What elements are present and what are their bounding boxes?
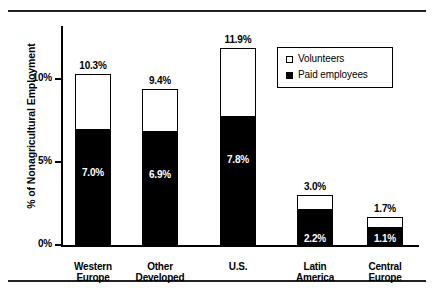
x-category-label: WesternEurope — [74, 261, 112, 284]
category-label-line: Central — [368, 261, 401, 273]
legend-label-volunteers: Volunteers — [298, 54, 344, 64]
bar-group[interactable]: 1.7%1.1%CentralEurope — [367, 217, 403, 245]
bar-paid-label: 7.0% — [82, 167, 104, 178]
y-tick-label: 0% — [14, 239, 52, 249]
figure: % of Nonagricultural Employment 10%5%0% … — [0, 0, 434, 295]
legend-swatch-filled-square-icon — [286, 72, 293, 79]
bar-total-label: 3.0% — [304, 181, 326, 192]
y-axis-title: % of Nonagricultural Employment — [25, 31, 37, 221]
legend-item-volunteers: Volunteers — [286, 54, 344, 64]
category-label-line: Developed — [136, 272, 185, 284]
category-label-line: Europe — [368, 272, 401, 284]
bar-total-label: 9.4% — [149, 75, 171, 86]
plot-area: % of Nonagricultural Employment 10%5%0% … — [0, 0, 434, 295]
x-category-label: LatinAmerica — [296, 261, 334, 284]
bar-segment-paid-employees[interactable] — [142, 131, 178, 245]
bar-group[interactable]: 10.3%7.0%WesternEurope — [75, 74, 111, 245]
y-tick-mark — [55, 78, 62, 80]
y-tick-label: 10% — [14, 73, 52, 83]
category-label-line: Latin — [296, 261, 334, 273]
bar-group[interactable]: 11.9%7.8%U.S. — [220, 48, 256, 245]
y-tick-mark — [55, 161, 62, 163]
bar-paid-label: 7.8% — [227, 154, 249, 165]
x-category-label: CentralEurope — [368, 261, 401, 284]
legend-swatch-open-square-icon — [286, 56, 293, 63]
bar-group[interactable]: 9.4%6.9%OtherDeveloped — [142, 89, 178, 245]
x-axis-line — [61, 245, 419, 247]
bar-segment-paid-employees[interactable] — [75, 129, 111, 245]
category-label-line: Europe — [74, 272, 112, 284]
category-label-line: U.S. — [229, 261, 248, 273]
bar-group[interactable]: 3.0%2.2%LatinAmerica — [297, 195, 333, 245]
x-category-label: U.S. — [229, 261, 248, 273]
bar-paid-label: 2.2% — [304, 233, 326, 244]
bar-segment-paid-employees[interactable] — [220, 116, 256, 245]
x-category-label: OtherDeveloped — [136, 261, 185, 284]
category-label-line: Western — [74, 261, 112, 273]
category-label-line: Other — [136, 261, 185, 273]
bar-total-label: 1.7% — [374, 203, 396, 214]
legend-item-paid-employees: Paid employees — [286, 70, 368, 80]
chart-legend: Volunteers Paid employees — [277, 47, 393, 88]
y-tick-label: 5% — [14, 156, 52, 166]
bar-total-label: 10.3% — [79, 60, 106, 71]
legend-label-paid-employees: Paid employees — [298, 70, 368, 80]
bar-paid-label: 1.1% — [374, 233, 396, 244]
bar-paid-label: 6.9% — [149, 169, 171, 180]
category-label-line: America — [296, 272, 334, 284]
y-axis-line — [61, 26, 63, 247]
y-tick-mark — [55, 244, 62, 246]
bar-total-label: 11.9% — [225, 34, 252, 45]
